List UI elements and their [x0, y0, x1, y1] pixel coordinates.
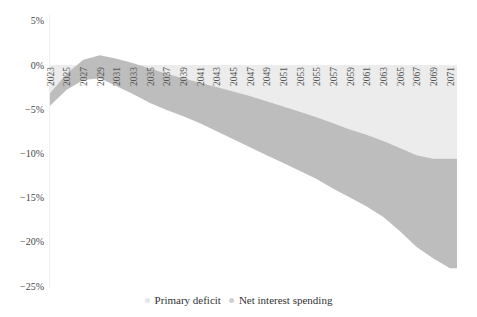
x-tick-label: 2053: [296, 67, 306, 86]
y-tick-label: 0%: [31, 60, 44, 71]
y-tick-label: −10%: [20, 148, 44, 159]
chart-legend: Primary deficit Net interest spending: [0, 294, 477, 306]
y-tick-label: 5%: [31, 15, 44, 26]
x-tick-label: 2039: [179, 67, 189, 86]
chart-areas: [50, 55, 457, 268]
x-tick-label: 2047: [246, 67, 256, 86]
x-tick-label: 2071: [446, 67, 456, 86]
x-tick-label: 2061: [362, 67, 372, 86]
x-tick-label: 2029: [96, 67, 106, 86]
x-tick-label: 2069: [429, 67, 439, 86]
x-tick-label: 2033: [129, 67, 139, 86]
x-tick-label: 2059: [346, 67, 356, 86]
deficit-area-chart: 5%0%−5%−10%−15%−20%−25% 2023202520272029…: [0, 0, 477, 317]
x-tick-label: 2043: [212, 67, 222, 86]
x-tick-label: 2041: [196, 67, 206, 86]
x-tick-label: 2025: [62, 67, 72, 86]
x-tick-label: 2057: [329, 67, 339, 86]
legend-swatch-net-interest: [229, 298, 234, 303]
y-tick-label: −20%: [20, 236, 44, 247]
legend-label-net-interest: Net interest spending: [239, 294, 332, 306]
x-tick-label: 2045: [229, 67, 239, 86]
x-tick-label: 2027: [79, 67, 89, 86]
x-tick-label: 2037: [162, 67, 172, 86]
x-tick-label: 2031: [112, 67, 122, 86]
x-tick-label: 2035: [146, 67, 156, 86]
legend-item-net-interest: Net interest spending: [229, 294, 332, 306]
x-tick-label: 2067: [412, 67, 422, 86]
x-tick-label: 2065: [396, 67, 406, 86]
x-tick-label: 2051: [279, 67, 289, 86]
x-tick-label: 2023: [46, 67, 56, 86]
legend-label-primary-deficit: Primary deficit: [155, 294, 221, 306]
legend-item-primary-deficit: Primary deficit: [145, 294, 221, 306]
x-tick-label: 2055: [312, 67, 322, 86]
y-tick-label: −5%: [25, 104, 44, 115]
legend-swatch-primary-deficit: [145, 298, 150, 303]
y-tick-label: −15%: [20, 192, 44, 203]
x-tick-label: 2049: [262, 67, 272, 86]
x-tick-label: 2063: [379, 67, 389, 86]
y-axis: 5%0%−5%−10%−15%−20%−25%: [20, 15, 44, 291]
y-tick-label: −25%: [20, 281, 44, 292]
